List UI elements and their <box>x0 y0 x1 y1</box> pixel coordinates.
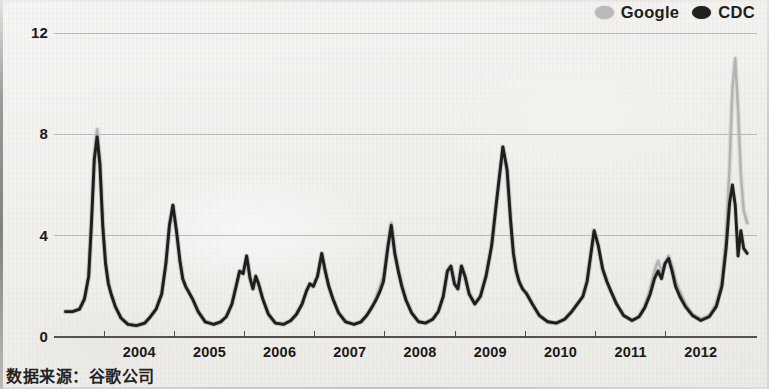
x-axis-tick-label: 2008 <box>390 344 450 360</box>
x-axis-tick-label: 2012 <box>671 344 731 360</box>
x-axis-tick-label: 2007 <box>320 344 380 360</box>
chart-plot-area: 04812 2004200520062007200820092010201120… <box>0 0 769 389</box>
page-edge-top <box>0 0 769 2</box>
x-axis-tick-label: 2005 <box>179 344 239 360</box>
x-axis-tick-label: 2006 <box>250 344 310 360</box>
series-line-google <box>66 58 748 325</box>
x-axis-tick-label: 2004 <box>109 344 169 360</box>
x-axis-tick-label: 2009 <box>460 344 520 360</box>
y-axis-tick-label: 0 <box>14 328 48 345</box>
page-edge-left <box>0 0 3 389</box>
series-halo-google <box>66 58 748 325</box>
y-axis-tick-label: 12 <box>14 24 48 41</box>
x-axis-tick-label: 2011 <box>601 344 661 360</box>
x-axis-tick-label: 2010 <box>530 344 590 360</box>
chart-source-caption: 数据来源：谷歌公司 <box>6 363 155 387</box>
y-axis-tick-label: 8 <box>14 125 48 142</box>
y-axis-tick-label: 4 <box>14 227 48 244</box>
chart-svg <box>0 0 769 389</box>
